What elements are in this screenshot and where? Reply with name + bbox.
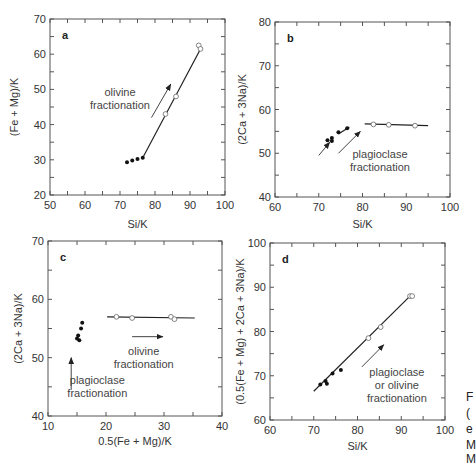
y-tick-label: 40: [32, 410, 44, 422]
y-tick-label: 40: [259, 191, 271, 203]
data-point: [136, 157, 140, 161]
panel-label: a: [62, 29, 69, 41]
x-tick-label: 70: [308, 424, 320, 436]
y-tick-label: 70: [259, 60, 271, 72]
x-axis-label: Si/K: [347, 440, 368, 452]
data-point: [79, 327, 83, 331]
trend-line: [107, 317, 195, 318]
annotation: plagioclasefractionation: [350, 148, 410, 173]
y-tick-label: 60: [34, 48, 46, 60]
data-point: [130, 316, 135, 321]
data-point: [345, 126, 349, 130]
y-tick-label: 20: [34, 189, 46, 201]
data-point: [410, 294, 415, 299]
data-point: [331, 372, 335, 376]
data-point: [172, 317, 177, 322]
data-point: [336, 130, 340, 134]
x-tick-label: 80: [351, 424, 363, 436]
data-point: [77, 338, 81, 342]
trend-line: [143, 49, 201, 158]
x-tick-label: 20: [100, 420, 112, 432]
x-tick-label: 90: [395, 424, 407, 436]
data-point: [130, 159, 134, 163]
y-tick-label: 90: [254, 281, 266, 293]
panel-label: d: [282, 253, 289, 265]
panel-c: 10203040405060700.5(Fe + Mg)/K(2Ca + 3Na…: [12, 235, 228, 447]
arrow-icon: [319, 142, 330, 155]
y-tick-label: 60: [254, 414, 266, 426]
y-axis-label: (2Ca + 3Na)/K: [236, 74, 248, 145]
data-point: [198, 47, 203, 52]
y-tick-label: 60: [32, 293, 44, 305]
x-axis-label: Si/K: [352, 218, 373, 230]
x-tick-label: 40: [216, 420, 228, 432]
data-point: [325, 382, 329, 386]
data-point: [76, 334, 80, 338]
y-axis-label: (0.5(Fe + Mg) + 2Ca + 3Na)/K: [234, 258, 246, 405]
data-point: [378, 325, 383, 330]
x-tick-label: 100: [441, 201, 459, 213]
data-point: [330, 139, 334, 143]
y-tick-label: 50: [259, 147, 271, 159]
x-tick-label: 80: [356, 201, 368, 213]
data-point: [114, 314, 119, 319]
x-axis-label: 0.5(Fe + Mg)/K: [98, 435, 172, 447]
data-point: [413, 123, 418, 128]
arrow-icon: [362, 345, 384, 367]
data-point: [326, 138, 330, 142]
y-tick-label: 70: [254, 370, 266, 382]
y-tick-label: 60: [259, 104, 271, 116]
annotation: olivinefractionation: [90, 86, 150, 111]
data-point: [339, 368, 343, 372]
annotation: plagioclasefractionation: [67, 374, 127, 399]
caption-fragment-0: F: [466, 389, 473, 405]
y-tick-label: 40: [34, 119, 46, 131]
annotation: plagioclaseor olivinefractionation: [367, 366, 427, 404]
panel-label: b: [287, 32, 294, 44]
panel-b: 607080901004050607080Si/K(2Ca + 3Na)/Kbp…: [236, 16, 459, 230]
y-axis-label: (2Ca + 3Na)/K: [12, 293, 24, 364]
data-point: [371, 122, 376, 127]
data-point: [366, 336, 371, 341]
data-point: [386, 122, 391, 127]
x-tick-label: 100: [436, 424, 454, 436]
y-tick-label: 100: [248, 237, 266, 249]
y-tick-label: 80: [259, 16, 271, 28]
data-point: [163, 112, 168, 117]
data-point: [80, 321, 84, 325]
annotation: olivinefractionation: [114, 345, 174, 370]
data-point: [174, 94, 179, 99]
panel-a: 5060708090100203040506070Si/K(Fe + Mg)/K…: [8, 13, 234, 230]
x-tick-label: 90: [184, 199, 196, 211]
y-axis-label: (Fe + Mg)/K: [8, 77, 20, 136]
caption-fragment-4: M: [466, 451, 476, 463]
y-tick-label: 50: [34, 83, 46, 95]
x-tick-label: 70: [313, 201, 325, 213]
x-axis-label: Si/K: [127, 218, 148, 230]
x-tick-label: 70: [114, 199, 126, 211]
caption-fragment-1: (: [466, 405, 470, 421]
x-tick-label: 60: [79, 199, 91, 211]
y-tick-label: 80: [254, 326, 266, 338]
data-point: [141, 156, 145, 160]
x-tick-label: 90: [400, 201, 412, 213]
y-tick-label: 50: [32, 352, 44, 364]
y-tick-label: 70: [34, 13, 46, 25]
data-point: [125, 160, 129, 164]
x-tick-label: 80: [149, 199, 161, 211]
y-tick-label: 30: [34, 154, 46, 166]
panel-d: 6070809010060708090100Si/K(0.5(Fe + Mg) …: [234, 237, 454, 452]
x-tick-label: 100: [216, 199, 234, 211]
panel-label: c: [60, 251, 66, 263]
x-tick-label: 30: [158, 420, 170, 432]
caption-fragment-2: e: [466, 421, 473, 437]
data-point: [318, 383, 322, 387]
y-tick-label: 70: [32, 235, 44, 247]
